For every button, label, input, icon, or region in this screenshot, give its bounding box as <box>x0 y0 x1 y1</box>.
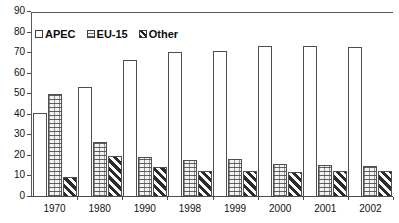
x-tick-mark <box>167 197 168 200</box>
legend-label: APEC <box>45 28 76 40</box>
bar-eu-15-2000 <box>273 164 287 197</box>
x-axis-label: 2001 <box>303 202 348 220</box>
legend-label: Other <box>149 28 178 40</box>
y-tick-label: 20 <box>14 149 25 160</box>
chart-legend: APECEU-15Other <box>34 28 179 40</box>
bar-other-1990 <box>153 167 167 197</box>
bar-apec-2002 <box>348 47 362 197</box>
bar-apec-1999 <box>213 51 227 197</box>
bar-eu-15-1990 <box>138 157 152 197</box>
bar-eu-15-1998 <box>183 160 197 197</box>
legend-swatch-icon <box>139 30 147 38</box>
y-tick-label: 50 <box>14 87 25 98</box>
x-axis-label: 1998 <box>167 202 212 220</box>
x-axis-label: 1999 <box>213 202 258 220</box>
y-axis: 9080706050403020100 <box>0 12 31 197</box>
bar-eu-15-2001 <box>318 165 332 197</box>
bar-other-2002 <box>378 171 392 197</box>
x-axis-label: 1980 <box>77 202 122 220</box>
y-tick-label: 30 <box>14 128 25 139</box>
bar-apec-1980 <box>78 87 92 197</box>
bar-group <box>303 12 348 197</box>
x-tick-mark <box>213 197 214 200</box>
legend-item-apec[interactable]: APEC <box>35 28 76 40</box>
bar-other-2000 <box>288 172 302 197</box>
x-tick-mark <box>77 197 78 200</box>
x-axis-label: 1990 <box>122 202 167 220</box>
bar-other-1980 <box>108 156 122 197</box>
bar-other-1970 <box>63 177 77 197</box>
y-tick-label: 40 <box>14 108 25 119</box>
bar-group <box>258 12 303 197</box>
bar-chart: 9080706050403020100 19701980199019981999… <box>0 0 399 223</box>
x-tick-mark <box>303 197 304 200</box>
y-tick-label: 90 <box>14 5 25 16</box>
bar-eu-15-1970 <box>48 94 62 197</box>
y-tick-label: 10 <box>14 169 25 180</box>
bar-apec-1990 <box>123 60 137 197</box>
y-tick-label: 80 <box>14 26 25 37</box>
x-tick-mark <box>348 197 349 200</box>
bar-group <box>348 12 393 197</box>
x-axis-label: 2000 <box>258 202 303 220</box>
x-tick-mark <box>393 197 394 200</box>
legend-swatch-icon <box>35 30 43 38</box>
y-tick-label: 60 <box>14 67 25 78</box>
y-tick-label: 70 <box>14 46 25 57</box>
legend-item-eu-15[interactable]: EU-15 <box>87 28 128 40</box>
bar-apec-2000 <box>258 46 272 197</box>
legend-label: EU-15 <box>97 28 128 40</box>
x-axis-label: 2002 <box>348 202 393 220</box>
bar-other-1998 <box>198 171 212 197</box>
bar-other-1999 <box>243 171 257 197</box>
bar-group <box>213 12 258 197</box>
x-axis-label: 1970 <box>32 202 77 220</box>
bar-apec-2001 <box>303 46 317 197</box>
bar-eu-15-2002 <box>363 166 377 197</box>
bar-apec-1998 <box>168 52 182 197</box>
y-tick-label: 0 <box>19 190 25 201</box>
legend-item-other[interactable]: Other <box>139 28 178 40</box>
bar-eu-15-1999 <box>228 159 242 197</box>
bar-apec-1970 <box>33 113 47 197</box>
bar-other-2001 <box>333 171 347 197</box>
x-axis-labels: 19701980199019981999200020012002 <box>32 202 393 220</box>
legend-swatch-icon <box>87 30 95 38</box>
x-tick-mark <box>258 197 259 200</box>
x-tick-mark <box>122 197 123 200</box>
bar-eu-15-1980 <box>93 142 107 198</box>
